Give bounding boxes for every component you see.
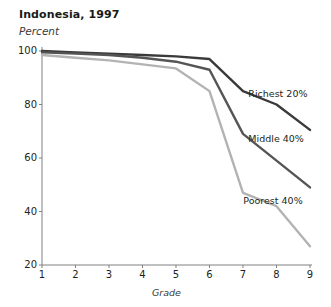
series-line-poorest-40 <box>42 55 310 246</box>
y-tick-label: 80 <box>13 100 37 110</box>
x-tick-label: 3 <box>99 269 119 280</box>
x-tick-label: 6 <box>200 269 220 280</box>
y-tick-label: 60 <box>13 153 37 163</box>
series-label-middle-40: Middle 40% <box>248 133 304 144</box>
x-tick-label: 5 <box>166 269 186 280</box>
x-tick-label: 7 <box>233 269 253 280</box>
x-tick-label: 8 <box>267 269 287 280</box>
chart-figure: Indonesia, 1997 Percent 20406080100 1234… <box>0 0 331 307</box>
x-tick-label: 4 <box>133 269 153 280</box>
plot-area <box>0 0 331 307</box>
y-tick-label: 40 <box>13 207 37 217</box>
y-tick-label: 100 <box>13 46 37 56</box>
x-tick-label: 2 <box>66 269 86 280</box>
series-label-poorest-40: Poorest 40% <box>243 195 302 206</box>
series-label-richest-20: Richest 20% <box>248 88 307 99</box>
x-axis-title: Grade <box>152 287 181 298</box>
series-line-middle-40 <box>42 52 310 187</box>
x-tick-label: 9 <box>300 269 320 280</box>
x-tick-label: 1 <box>32 269 52 280</box>
